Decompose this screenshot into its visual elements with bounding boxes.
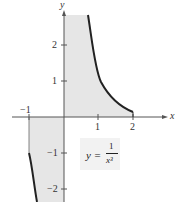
- y-tick-label-neg1: −1: [47, 148, 58, 158]
- equation-label: y = 1 x³: [80, 138, 120, 170]
- shaded-region-right: [64, 15, 133, 117]
- plot-area: [0, 0, 190, 202]
- x-tick-label-neg1: −1: [20, 105, 31, 115]
- y-tick-label-1: 1: [52, 76, 57, 86]
- equation-lhs: y =: [86, 149, 101, 161]
- x-axis-label: x: [170, 111, 174, 121]
- y-axis-arrow-icon: [62, 10, 66, 16]
- equation-numerator: 1: [109, 141, 114, 151]
- equation-denominator: x³: [106, 155, 113, 165]
- fraction-bar: [106, 153, 118, 154]
- y-tick-label-2: 2: [52, 40, 57, 50]
- x-tick-label-1: 1: [95, 122, 100, 132]
- x-axis-arrow-icon: [162, 115, 168, 119]
- x-tick-label-2: 2: [130, 122, 135, 132]
- y-axis-label: y: [60, 0, 64, 10]
- y-tick-label-neg2: −2: [47, 184, 58, 194]
